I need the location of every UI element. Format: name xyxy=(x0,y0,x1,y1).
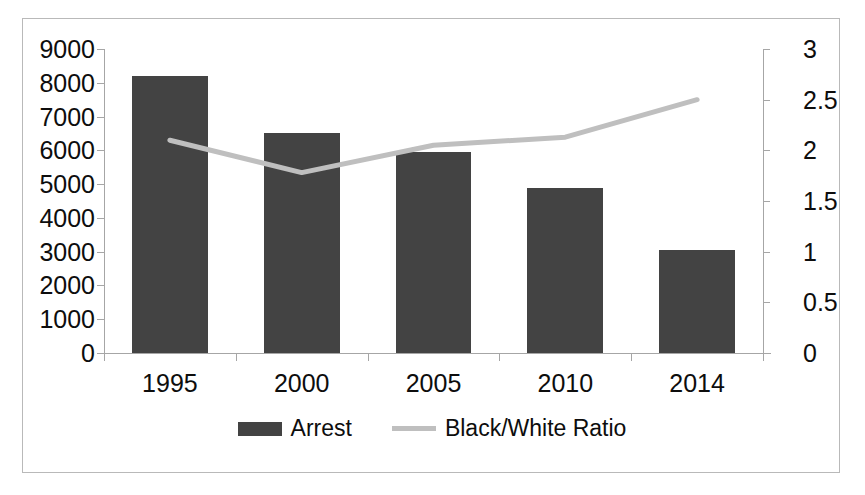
y-axis-left-tick xyxy=(97,184,104,185)
x-axis-labels: 19952000200520102014 xyxy=(104,368,763,408)
y-axis-left-tick xyxy=(97,150,104,151)
y-axis-right-tick xyxy=(763,252,770,253)
y-axis-left-tick-label: 4000 xyxy=(39,205,95,230)
y-axis-left-tick xyxy=(97,285,104,286)
legend-label-arrest: Arrest xyxy=(291,417,352,440)
plot-area: 9000800070006000500040003000200010000 32… xyxy=(23,19,841,474)
y-axis-right-tick xyxy=(763,150,770,151)
x-axis-label-2010: 2010 xyxy=(537,368,593,398)
y-axis-right-tick xyxy=(763,49,770,50)
legend-line-swatch-icon xyxy=(392,426,436,431)
x-axis-label-2005: 2005 xyxy=(406,368,462,398)
chart-frame: 9000800070006000500040003000200010000 32… xyxy=(22,18,840,473)
y-axis-left-labels: 9000800070006000500040003000200010000 xyxy=(23,19,95,474)
y-axis-left-tick-label: 9000 xyxy=(39,37,95,62)
y-axis-left-tick-label: 5000 xyxy=(39,172,95,197)
y-axis-right-tick-label: 0.5 xyxy=(803,290,838,315)
y-axis-left-tick-label: 6000 xyxy=(39,138,95,163)
y-axis-left-tick-label: 1000 xyxy=(39,307,95,332)
legend-item-arrest[interactable]: Arrest xyxy=(238,417,352,440)
y-axis-left-tick-label: 3000 xyxy=(39,239,95,264)
y-axis-right-tick xyxy=(763,302,770,303)
ratio-polyline xyxy=(170,100,697,173)
y-axis-right-labels: 32.521.510.50 xyxy=(777,19,841,474)
y-axis-right-tick-label: 1.5 xyxy=(803,189,838,214)
x-axis-label-2014: 2014 xyxy=(669,368,725,398)
cropped-title-remnant xyxy=(0,0,865,8)
y-axis-left-tick-label: 2000 xyxy=(39,273,95,298)
y-axis-right-tick xyxy=(763,201,770,202)
y-axis-right-tick xyxy=(763,353,770,354)
y-axis-right-tick xyxy=(763,100,770,101)
y-axis-left-tick xyxy=(97,319,104,320)
x-axis-tick xyxy=(763,353,764,361)
y-axis-right-tick-label: 2.5 xyxy=(803,87,838,112)
y-axis-right-tick-label: 2 xyxy=(803,138,817,163)
y-axis-left-tick-label: 0 xyxy=(81,341,95,366)
y-axis-left-tick xyxy=(97,49,104,50)
y-axis-left-tick xyxy=(97,252,104,253)
x-axis-label-1995: 1995 xyxy=(142,368,198,398)
y-axis-right-tick-label: 0 xyxy=(803,341,817,366)
y-axis-right-tick-label: 1 xyxy=(803,239,817,264)
y-axis-left-tick xyxy=(97,117,104,118)
y-axis-left-tick xyxy=(97,353,104,354)
x-axis-label-2000: 2000 xyxy=(274,368,330,398)
y-axis-left-tick-label: 8000 xyxy=(39,70,95,95)
y-axis-left-tick xyxy=(97,218,104,219)
legend-label-black-white-ratio: Black/White Ratio xyxy=(445,417,627,440)
y-axis-left-tick-label: 7000 xyxy=(39,104,95,129)
legend-item-black-white-ratio[interactable]: Black/White Ratio xyxy=(392,417,627,440)
y-axis-right-tick-label: 3 xyxy=(803,37,817,62)
legend-bar-swatch-icon xyxy=(238,422,282,436)
y-axis-left-tick xyxy=(97,83,104,84)
chart-legend: Arrest Black/White Ratio xyxy=(23,417,841,440)
